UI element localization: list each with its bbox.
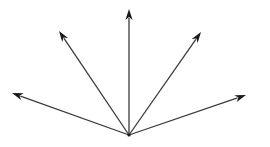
arrows-group: [12, 9, 246, 135]
arrow-shaft: [129, 39, 196, 135]
arrow-shaft: [20, 96, 129, 135]
vector-fan-diagram: [0, 0, 270, 147]
arrowhead-icon: [192, 32, 201, 43]
origin-point: [127, 133, 130, 136]
arrowhead-icon: [59, 31, 68, 42]
arrow-right: [129, 95, 246, 135]
arrow-upper-right: [129, 32, 201, 135]
arrow-left: [12, 93, 129, 135]
arrow-up: [125, 9, 132, 135]
arrow-upper-left: [59, 31, 129, 135]
arrow-shaft: [64, 38, 129, 135]
arrow-shaft: [129, 98, 237, 135]
